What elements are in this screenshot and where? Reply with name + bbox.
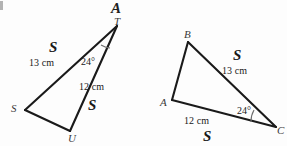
- right-side-BA: [172, 42, 188, 100]
- vertex-label-S: S: [11, 103, 17, 114]
- side-length-left-12: 12 cm: [79, 82, 104, 92]
- vertex-label-U: U: [68, 133, 76, 144]
- vertex-label-B: B: [184, 29, 191, 40]
- side-length-right-12: 12 cm: [184, 116, 209, 126]
- congruence-mark-right-upper: S: [233, 48, 241, 63]
- angle-label-left-24: 24°: [81, 57, 95, 67]
- left-side-TS: [25, 26, 117, 110]
- side-length-right-13: 13 cm: [222, 66, 247, 76]
- vertex-label-A-right: A: [160, 97, 167, 108]
- angle-label-right-24: 24°: [237, 106, 251, 116]
- side-length-left-13: 13 cm: [29, 58, 54, 68]
- triangle-left-shape: [25, 26, 117, 131]
- vertex-label-T: T: [114, 16, 120, 27]
- vertex-label-A-top: A: [111, 1, 121, 16]
- congruence-mark-left-upper: S: [49, 40, 57, 55]
- congruence-mark-left-lower: S: [88, 98, 96, 113]
- geometry-figure: A T S U S 13 cm 24° 12 cm S B A C S 13 c…: [0, 0, 287, 146]
- left-side-UT: [70, 26, 117, 131]
- congruence-mark-right-lower: S: [203, 129, 211, 144]
- left-side-SU: [25, 110, 70, 131]
- vertex-label-C: C: [277, 125, 284, 136]
